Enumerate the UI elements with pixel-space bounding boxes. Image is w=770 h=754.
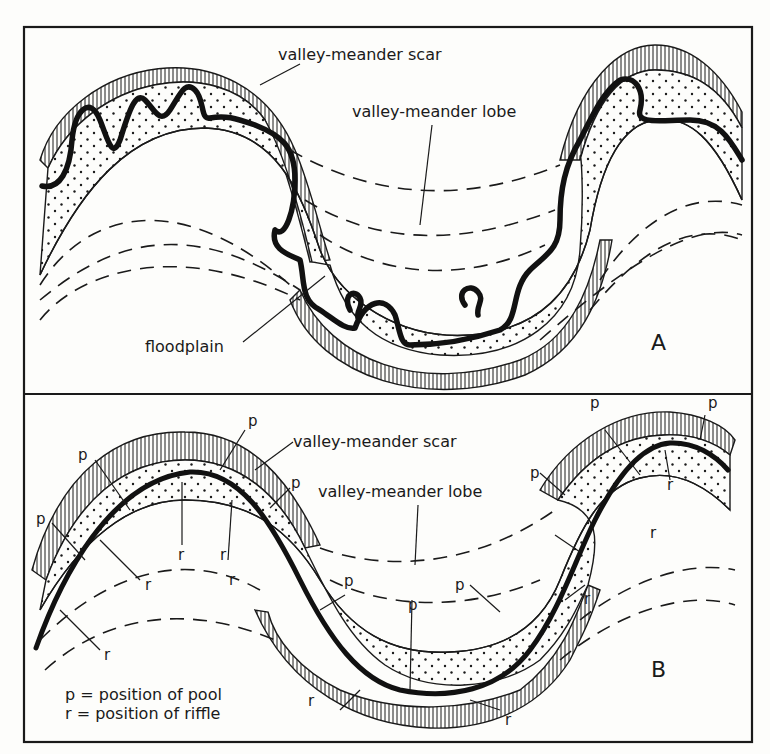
panel-a-left-contour-2 bbox=[40, 245, 300, 300]
pool-marker: p bbox=[344, 572, 354, 590]
panel-a-lobe-contour-2 bbox=[305, 200, 555, 235]
panel-a: valley-meander scar valley-meander lobe … bbox=[40, 45, 742, 389]
panel-a-lobe-contour-3 bbox=[320, 235, 545, 270]
panel-b-right-contour-1 bbox=[580, 567, 735, 620]
panel-a-letter: A bbox=[651, 330, 666, 355]
riffle-marker: r bbox=[667, 476, 674, 494]
panel-a-left-contour-3 bbox=[40, 267, 300, 320]
pool-marker: p bbox=[291, 474, 301, 492]
panel-a-right-contour-2 bbox=[590, 234, 742, 310]
panel-a-floodplain-label: floodplain bbox=[145, 337, 224, 356]
panel-b: p p p p p p p p p p r r r r r r r r r r … bbox=[32, 394, 735, 729]
legend-riffle: r = position of riffle bbox=[65, 704, 220, 723]
riffle-marker: r bbox=[229, 571, 236, 589]
pool-marker: p bbox=[590, 394, 600, 412]
legend-pool: p = position of pool bbox=[65, 685, 222, 704]
pool-marker: p bbox=[408, 596, 418, 614]
panel-a-oxbow-2 bbox=[462, 288, 481, 315]
riffle-marker: r bbox=[145, 576, 152, 594]
panel-b-lobe-leader bbox=[415, 505, 418, 565]
panel-b-left-contour-2 bbox=[45, 619, 275, 670]
riffle-marker: r bbox=[104, 646, 111, 664]
pool-marker: p bbox=[455, 576, 465, 594]
panel-a-scar-bottom bbox=[290, 240, 612, 389]
panel-b-lobe-label: valley-meander lobe bbox=[318, 482, 482, 501]
riffle-marker: r bbox=[220, 546, 227, 564]
riffle-marker: r bbox=[505, 711, 512, 729]
panel-a-left-contour-1 bbox=[40, 220, 290, 285]
panel-a-scar-leader bbox=[260, 64, 300, 85]
meander-diagram: valley-meander scar valley-meander lobe … bbox=[0, 0, 770, 754]
pool-marker: p bbox=[78, 446, 88, 464]
pool-marker: p bbox=[530, 464, 540, 482]
riffle-marker: r bbox=[584, 590, 591, 608]
riffle-marker: r bbox=[650, 524, 657, 542]
pool-marker: p bbox=[36, 510, 46, 528]
pool-marker: p bbox=[708, 394, 718, 412]
panel-b-lobe-contour-1 bbox=[320, 510, 555, 561]
panel-a-right-contour-1 bbox=[600, 201, 742, 280]
panel-a-inner-boundary bbox=[40, 119, 742, 335]
riffle-marker: r bbox=[178, 546, 185, 564]
panel-a-lobe-label: valley-meander lobe bbox=[352, 102, 516, 121]
panel-b-scar-label: valley-meander scar bbox=[293, 432, 457, 451]
panel-b-scar-leader bbox=[255, 442, 293, 470]
panel-a-scar-label: valley-meander scar bbox=[278, 45, 442, 64]
panel-b-lobe-contour-2 bbox=[330, 580, 540, 603]
pool-marker: p bbox=[248, 412, 258, 430]
panel-b-letter: B bbox=[651, 657, 666, 682]
riffle-marker: r bbox=[308, 692, 315, 710]
panel-a-lobe-leader bbox=[420, 125, 432, 225]
